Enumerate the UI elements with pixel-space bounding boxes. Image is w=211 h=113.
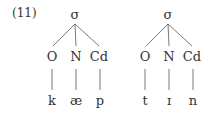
tree2-segment-3: n bbox=[189, 94, 197, 107]
tree1-onset: O bbox=[47, 50, 58, 63]
tree2-nucleus: N bbox=[163, 50, 174, 63]
tree2-onset: O bbox=[140, 50, 151, 63]
tree2-coda: Cd bbox=[183, 50, 201, 63]
tree2-root: σ bbox=[164, 8, 173, 21]
tree1-segment-1: k bbox=[48, 94, 56, 107]
tree1-nucleus: N bbox=[70, 50, 81, 63]
tree1-segment-3: p bbox=[96, 94, 104, 107]
tree2-segment-1: t bbox=[142, 94, 147, 107]
tree1-segment-2: æ bbox=[70, 94, 82, 107]
tree1-root: σ bbox=[71, 8, 80, 21]
tree1-coda: Cd bbox=[90, 50, 108, 63]
tree2-segment-2: ɪ bbox=[167, 94, 171, 107]
